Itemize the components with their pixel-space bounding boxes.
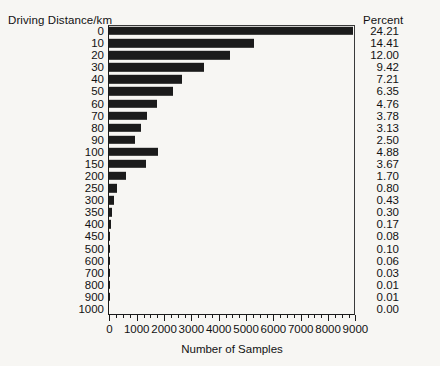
bar [109,39,254,47]
bar-rows: 024.211014.412012.00309.42407.21506.3560… [0,25,440,315]
x-tick-minor [349,315,350,318]
bar-chart: Driving Distance/km Percent 024.211014.4… [0,0,440,366]
bar-row: 407.21 [0,73,440,85]
x-tick-label: 0 [106,323,112,336]
percent-value: 3.67 [363,158,399,170]
x-tick-minor [253,315,254,318]
bar-row: 506.35 [0,85,440,97]
bar-row: 2012.00 [0,49,440,61]
bar-row: 1503.67 [0,158,440,170]
percent-value: 7.21 [363,73,399,85]
x-tick-label: 5000 [233,323,259,336]
bar-row: 803.13 [0,122,440,134]
category-label: 700 [85,267,104,279]
percent-value: 0.03 [363,267,399,279]
bar-row: 9000.01 [0,291,440,303]
bar [109,172,126,180]
percent-value: 2.50 [363,134,399,146]
x-tick-minor [342,315,343,318]
bar-row: 703.78 [0,110,440,122]
category-label: 600 [85,255,104,267]
percent-value: 0.80 [363,182,399,194]
x-tick-minor [116,315,117,318]
x-tick-minor [294,315,295,318]
x-tick-label: 9000 [343,323,369,336]
x-tick-minor [130,315,131,318]
percent-value: 12.00 [363,49,399,61]
x-tick-minor [267,315,268,318]
category-label: 20 [91,49,104,61]
category-label: 60 [91,98,104,110]
bar-row: 2500.80 [0,182,440,194]
bar-row: 1004.88 [0,146,440,158]
x-axis-ticks [108,315,356,321]
category-label: 250 [85,182,104,194]
bar [109,99,157,107]
category-label: 200 [85,170,104,182]
x-tick-major [219,315,220,321]
percent-value: 0.06 [363,255,399,267]
category-label: 40 [91,73,104,85]
percent-value: 9.42 [363,61,399,73]
x-tick-minor [287,315,288,318]
category-label: 100 [85,146,104,158]
percent-value: 0.43 [363,194,399,206]
bar [109,160,146,168]
bar [109,51,230,59]
bar [109,196,113,204]
percent-value: 0.08 [363,230,399,242]
bar [109,184,117,192]
x-tick-major [109,315,110,321]
bar-row: 5000.10 [0,243,440,255]
category-label: 400 [85,218,104,230]
bar-row: 309.42 [0,61,440,73]
percent-value: 3.13 [363,122,399,134]
x-tick-label: 6000 [261,323,287,336]
bar [109,111,147,119]
x-tick-label: 3000 [179,323,205,336]
x-tick-label: 2000 [151,323,177,336]
bar-row: 4000.17 [0,218,440,230]
x-tick-minor [205,315,206,318]
bar-row: 7000.03 [0,267,440,279]
category-label: 900 [85,291,104,303]
x-tick-minor [198,315,199,318]
category-label: 450 [85,230,104,242]
percent-value: 4.76 [363,98,399,110]
x-tick-minor [239,315,240,318]
category-label: 800 [85,279,104,291]
x-tick-label: 8000 [315,323,341,336]
x-tick-major [328,315,329,321]
x-tick-minor [212,315,213,318]
x-tick-minor [185,315,186,318]
bar-row: 8000.01 [0,279,440,291]
x-tick-major [137,315,138,321]
percent-value: 14.41 [363,37,399,49]
category-label: 50 [91,85,104,97]
bar [109,256,110,264]
x-tick-minor [171,315,172,318]
bar-row: 604.76 [0,98,440,110]
category-label: 1000 [78,303,104,315]
bar [109,208,112,216]
bar [109,220,111,228]
x-tick-minor [150,315,151,318]
category-label: 150 [85,158,104,170]
x-tick-minor [321,315,322,318]
x-tick-minor [232,315,233,318]
percent-value: 6.35 [363,85,399,97]
x-tick-minor [123,315,124,318]
x-tick-major [164,315,165,321]
bar [109,27,352,35]
x-tick-major [301,315,302,321]
x-axis-tick-labels: 0100020003000400050006000700080009000 [0,323,440,337]
percent-value: 24.21 [363,25,399,37]
x-tick-minor [157,315,158,318]
x-tick-major [246,315,247,321]
bar-row: 10000.00 [0,303,440,315]
percent-value: 0.10 [363,243,399,255]
category-label: 80 [91,122,104,134]
percent-value: 3.78 [363,110,399,122]
percent-value: 0.30 [363,206,399,218]
category-label: 300 [85,194,104,206]
